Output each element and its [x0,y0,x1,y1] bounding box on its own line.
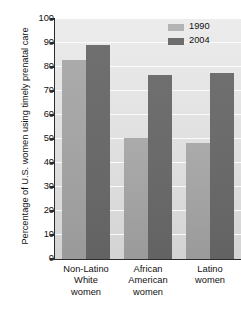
y-axis-tick [50,42,54,43]
y-axis-tick [50,186,54,187]
legend-item-1990: 1990 [168,21,238,33]
x-axis-label-3: Latinowomen [179,264,241,309]
legend-label-2004: 2004 [189,36,210,45]
bar-1990-group2 [124,138,148,259]
plot-area [55,19,241,259]
legend-swatch-1990 [168,24,184,31]
y-axis-tick [50,210,54,211]
bar-1990-group1 [62,60,86,259]
bar-2004-group2 [148,75,172,259]
bar-1990-group3 [186,143,210,259]
x-axis-line [54,259,241,260]
x-axis-labels: Non-LatinoWhitewomenAfricanAmericanwomen… [55,264,241,309]
y-axis-tick [50,234,54,235]
legend: 1990 2004 [168,21,238,49]
bar-2004-group1 [86,45,110,259]
y-axis-tick [50,258,54,259]
bar-2004-group3 [210,73,234,259]
legend-swatch-2004 [168,38,184,45]
legend-label-1990: 1990 [189,22,210,31]
y-axis-tick [50,114,54,115]
legend-item-2004: 2004 [168,35,238,47]
y-axis-tick [50,66,54,67]
prenatal-care-bar-chart: Percentage of U.S. women using timely pr… [0,0,241,311]
y-axis-ticks: 0102030405060708090100 [16,0,54,311]
x-axis-label-1: Non-LatinoWhitewomen [55,264,117,309]
y-axis-tick [50,138,54,139]
y-axis-tick [50,90,54,91]
y-axis-tick [50,162,54,163]
y-axis-tick [50,18,54,19]
x-axis-label-2: AfricanAmericanwomen [117,264,179,309]
